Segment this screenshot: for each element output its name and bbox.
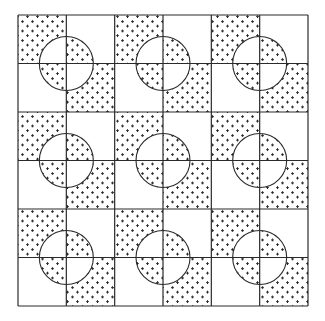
checkerboard-circle-diagram — [0, 0, 325, 321]
